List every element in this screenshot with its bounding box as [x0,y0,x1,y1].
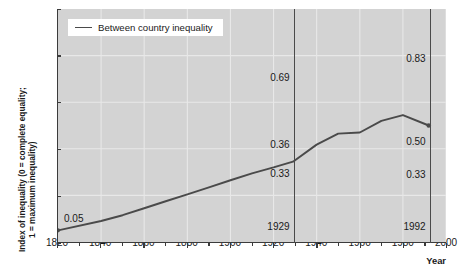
x-tick-mark-1900 [230,243,231,248]
x-tick-mark-2000 [446,243,447,248]
y-tick-mark-1 [57,9,61,10]
x-tick-mark-1950 [338,243,339,246]
annotation-1929-upper: 0.69 [252,73,290,83]
plot-area: 0.69 0.36 0.33 1929 0.83 0.50 0.33 1992 … [57,9,446,243]
y-axis-title-line2: 1 = maximum inequality) [28,2,38,252]
y-axis-title-container: Index of inequality (0 = complete equali… [0,0,26,273]
y-tick-mark-0.6 [57,102,61,103]
x-tick-mark-1930 [295,243,296,246]
cropped-title-fragment [112,0,352,3]
annotation-start-value: 0.05 [64,214,94,224]
x-tick-mark-1980 [403,243,404,248]
y-axis-title-line1: Index of inequality (0 = complete equali… [17,87,27,252]
data-line-between-country-inequality [58,9,446,242]
annotation-1992-mid: 0.50 [388,137,426,147]
y-axis-title: Index of inequality (0 = complete equali… [18,2,37,252]
x-tick-mark-1880 [187,243,188,248]
x-tick-mark-1960 [360,243,361,248]
annotation-1929-year: 1929 [248,222,290,232]
x-tick-mark-1850 [122,243,123,246]
annotation-1992-upper: 0.83 [388,54,426,64]
x-tick-mark-1940 [316,243,317,248]
annotation-1992-year: 1992 [384,222,426,232]
annotation-1992-lower: 0.33 [388,170,426,180]
x-tick-mark-1910 [252,243,253,246]
y-tick-mark-0.8 [57,55,61,56]
annotation-1929-lower: 0.33 [252,169,290,179]
x-tick-mark-1990 [424,243,425,246]
legend-label-between-country-inequality: Between country inequality [98,22,213,33]
legend-swatch-icon [75,27,92,29]
x-tick-mark-1970 [381,243,382,246]
x-tick-mark-1890 [208,243,209,246]
x-tick-mark-1830 [79,243,80,246]
x-tick-mark-1840 [100,243,101,248]
reference-line-1992 [430,9,431,243]
chart-figure: Index of inequality (0 = complete equali… [0,0,460,273]
x-tick-mark-1820 [57,243,58,248]
x-tick-mark-1860 [143,243,144,248]
y-tick-mark-0.4 [57,149,61,150]
y-tick-mark-0.2 [57,196,61,197]
reference-line-1929 [294,9,295,243]
x-tick-mark-1870 [165,243,166,246]
annotation-1929-mid: 0.36 [252,140,290,150]
chart-legend: Between country inequality [68,19,223,36]
x-tick-mark-1920 [273,243,274,248]
x-axis-title: Year [0,255,446,266]
